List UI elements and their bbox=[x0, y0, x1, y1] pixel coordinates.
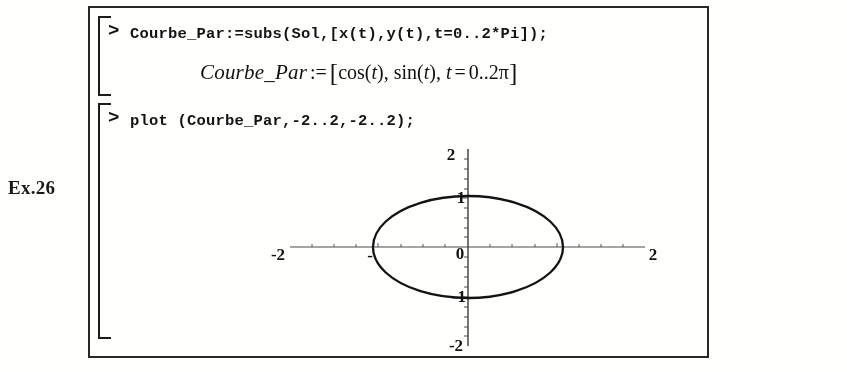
output-close-bracket: ] bbox=[509, 59, 517, 86]
output-assign-operator: := bbox=[307, 61, 330, 83]
x-tick-label-near-neg-one: - bbox=[367, 246, 373, 265]
maple-input-line-1[interactable]: Courbe_Par:=subs(Sol,[x(t),y(t),t=0..2*P… bbox=[130, 25, 548, 43]
x-tick-label-right: 2 bbox=[649, 245, 658, 264]
output-comma-1: , bbox=[384, 61, 389, 83]
exercise-label: Ex.26 bbox=[8, 177, 55, 199]
origin-label: 0 bbox=[456, 244, 465, 263]
prompt-caret-1: > bbox=[108, 22, 119, 41]
maple-input-line-2[interactable]: plot (Courbe_Par,-2..2,-2..2); bbox=[130, 112, 415, 130]
output-open-bracket: [ bbox=[330, 59, 338, 86]
output-cos-close-paren: ) bbox=[377, 61, 384, 83]
y-tick-label-top: 2 bbox=[447, 145, 456, 164]
y-tick-label-one: 1 bbox=[457, 188, 466, 207]
parametric-plot: 2 1 0 -1 -2 -2 - 2 bbox=[255, 136, 665, 358]
prompt-caret-2: > bbox=[108, 109, 119, 128]
plot-output-region[interactable]: 2 1 0 -1 -2 -2 - 2 bbox=[255, 136, 665, 358]
output-comma-2: , bbox=[436, 61, 441, 83]
output-range-value: 0..2π bbox=[469, 61, 509, 83]
output-sin-close-paren: ) bbox=[429, 61, 436, 83]
output-cos-open-paren: ( bbox=[365, 61, 372, 83]
output-range-equals: = bbox=[452, 61, 469, 83]
output-sin-function: sin bbox=[394, 61, 417, 83]
y-tick-label-bottom: -2 bbox=[449, 336, 463, 355]
output-lhs-variable: Courbe_Par bbox=[200, 60, 307, 84]
y-tick-label-neg-one: -1 bbox=[452, 287, 466, 306]
output-cos-function: cos bbox=[338, 61, 365, 83]
output-range-variable: t bbox=[446, 61, 452, 83]
maple-output-line-1: Courbe_Par:=[cos(t), sin(t), t=0..2π] bbox=[200, 59, 517, 87]
scanned-worksheet-page: Ex.26 > Courbe_Par:=subs(Sol,[x(t),y(t),… bbox=[0, 0, 847, 372]
x-tick-label-left: -2 bbox=[271, 245, 285, 264]
output-sin-open-paren: ( bbox=[417, 61, 424, 83]
